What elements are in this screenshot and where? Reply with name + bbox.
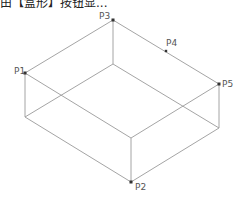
edge-p5-front (131, 84, 219, 138)
isometric-box-diagram: P1 P2 P3 P4 P5 (0, 0, 243, 206)
label-p4: P4 (166, 38, 177, 48)
point-p2-marker (130, 181, 133, 184)
label-p1: P1 (14, 66, 25, 76)
box-edges (25, 20, 219, 182)
label-p5: P5 (222, 79, 233, 89)
edge-bottom-front-left (25, 117, 131, 182)
edge-bottom-back-left (25, 64, 113, 117)
label-p3: P3 (99, 11, 110, 21)
point-labels: P1 P2 P3 P4 P5 (14, 11, 233, 192)
point-p4-marker (165, 50, 167, 52)
edge-p1-p3 (25, 20, 113, 73)
point-p3-marker (112, 19, 115, 22)
edge-bottom-front-right (131, 128, 219, 182)
edge-front-p1 (25, 73, 131, 138)
edge-bottom-back-right (113, 64, 219, 128)
point-p5-marker (218, 83, 221, 86)
label-p2: P2 (135, 182, 146, 192)
